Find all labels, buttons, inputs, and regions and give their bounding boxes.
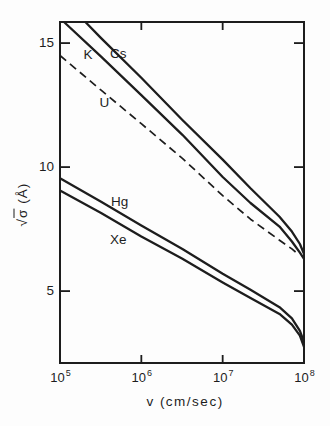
curve-label-Cs: Cs xyxy=(110,46,127,61)
x-tick-label-10e8: 108 xyxy=(284,369,324,385)
curve-Xe xyxy=(60,191,304,347)
x-tick-label-10e7: 107 xyxy=(203,369,243,385)
figure-canvas: CsKUHgXe √σ(Å) v (cm/sec) 10510610710815… xyxy=(0,0,330,426)
y-tick-label-5: 5 xyxy=(32,283,54,299)
sqrt-radical-symbol: √ xyxy=(15,218,30,226)
curve-label-U: U xyxy=(99,95,109,110)
curve-label-K: K xyxy=(83,47,92,62)
x-tick-label-10e5: 105 xyxy=(40,369,80,385)
axes-frame xyxy=(60,22,304,363)
curve-label-Xe: Xe xyxy=(110,232,127,247)
y-axis-title: √σ(Å) xyxy=(15,158,30,252)
y-tick-label-15: 15 xyxy=(32,35,54,51)
sigma-symbol: σ xyxy=(15,209,30,218)
y-axis-unit: (Å) xyxy=(15,183,30,204)
y-tick-label-10: 10 xyxy=(32,159,54,175)
curve-U xyxy=(60,56,298,254)
x-tick-label-10e6: 106 xyxy=(121,369,161,385)
curve-K xyxy=(64,22,304,259)
plot-area: CsKUHgXe xyxy=(0,0,330,426)
x-axis-title: v (cm/sec) xyxy=(110,394,260,409)
curve-Hg xyxy=(60,178,304,342)
curve-label-Hg: Hg xyxy=(111,194,128,209)
